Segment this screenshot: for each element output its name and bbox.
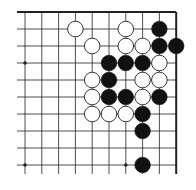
white-stone[interactable] bbox=[118, 38, 134, 54]
white-stone[interactable] bbox=[84, 72, 100, 88]
black-stone[interactable] bbox=[118, 55, 134, 71]
white-stone[interactable] bbox=[152, 55, 168, 71]
white-stone[interactable] bbox=[152, 72, 168, 88]
black-stone[interactable] bbox=[152, 21, 168, 37]
white-stone[interactable] bbox=[84, 89, 100, 105]
white-stone[interactable] bbox=[135, 89, 151, 105]
black-stone[interactable] bbox=[152, 38, 168, 54]
white-stone[interactable] bbox=[68, 21, 84, 37]
white-stone[interactable] bbox=[84, 106, 100, 122]
white-stone[interactable] bbox=[135, 38, 151, 54]
black-stone[interactable] bbox=[135, 106, 151, 122]
white-stone[interactable] bbox=[135, 72, 151, 88]
white-stone[interactable] bbox=[118, 106, 134, 122]
black-stone[interactable] bbox=[101, 72, 117, 88]
white-stone[interactable] bbox=[101, 106, 117, 122]
black-stone[interactable] bbox=[135, 157, 151, 173]
star-point bbox=[23, 61, 27, 65]
go-board[interactable] bbox=[0, 0, 196, 190]
black-stone[interactable] bbox=[135, 55, 151, 71]
black-stone[interactable] bbox=[168, 38, 184, 54]
star-point bbox=[124, 163, 128, 167]
black-stone[interactable] bbox=[118, 89, 134, 105]
white-stone[interactable] bbox=[118, 21, 134, 37]
black-stone[interactable] bbox=[152, 89, 168, 105]
black-stone[interactable] bbox=[101, 55, 117, 71]
black-stone[interactable] bbox=[135, 123, 151, 139]
black-stone[interactable] bbox=[101, 89, 117, 105]
star-point bbox=[23, 163, 27, 167]
white-stone[interactable] bbox=[84, 38, 100, 54]
